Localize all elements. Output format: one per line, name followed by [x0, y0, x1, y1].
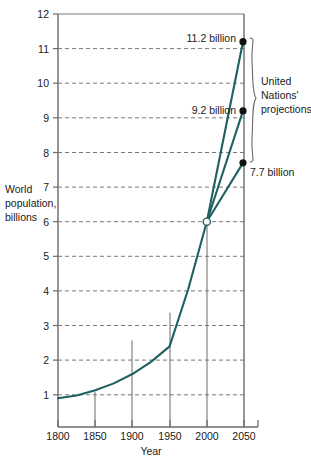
x-axis-title: Year	[140, 445, 162, 457]
y-tick-label-10: 10	[37, 77, 49, 89]
y-tick-label-11: 11	[38, 43, 49, 55]
y-tick-label-9: 9	[43, 112, 49, 124]
y-axis-title-line2: population,	[5, 197, 56, 209]
drop-lines	[95, 222, 207, 427]
projection-line-high	[207, 42, 243, 222]
y-axis-title-line3: billions	[5, 211, 37, 223]
x-tick-labels: 1800 1850 1900 1950 2000 2050	[46, 430, 256, 442]
x-tick-label-1900: 1900	[120, 430, 144, 442]
un-projections-line3: projections	[261, 103, 311, 115]
y-tick-label-6: 6	[43, 216, 49, 228]
projection-lines	[207, 42, 243, 222]
un-projections-line1: United	[261, 75, 292, 87]
x-axis-ticks	[58, 420, 258, 427]
y-tick-label-4: 4	[43, 285, 49, 297]
branch-point-marker	[203, 218, 210, 225]
x-tick-label-1850: 1850	[83, 430, 107, 442]
x-tick-label-1800: 1800	[46, 430, 70, 442]
y-tick-label-12: 12	[37, 8, 49, 20]
un-projections-brace	[250, 38, 256, 162]
x-tick-label-2050: 2050	[232, 430, 256, 442]
endpoint-marker-low	[239, 159, 246, 166]
axes	[58, 14, 258, 427]
endpoint-marker-high	[239, 38, 246, 45]
un-projections-label: United Nations' projections	[261, 75, 311, 115]
annotation-low-label: 7.7 billion	[250, 166, 295, 178]
y-tick-label-2: 2	[43, 354, 49, 366]
gridlines	[58, 14, 244, 395]
y-axis-title-line1: World	[5, 183, 32, 195]
endpoint-marker-medium	[239, 107, 246, 114]
y-tick-label-7: 7	[43, 181, 49, 193]
annotation-high-label: 11.2 billion	[187, 32, 237, 44]
y-tick-label-1: 1	[43, 389, 49, 401]
y-tick-label-3: 3	[43, 320, 49, 332]
annotation-medium-label: 9.2 billion	[192, 104, 237, 116]
world-population-chart: 12 11 10 9 8 7 6 5 4 3 2 1 1800 1850 190…	[0, 0, 311, 462]
un-projections-line2: Nations'	[261, 89, 299, 101]
y-tick-label-8: 8	[43, 147, 49, 159]
chart-canvas: 12 11 10 9 8 7 6 5 4 3 2 1 1800 1850 190…	[0, 0, 311, 462]
x-tick-label-1950: 1950	[158, 430, 182, 442]
y-tick-label-5: 5	[43, 250, 49, 262]
x-tick-label-2000: 2000	[195, 430, 219, 442]
